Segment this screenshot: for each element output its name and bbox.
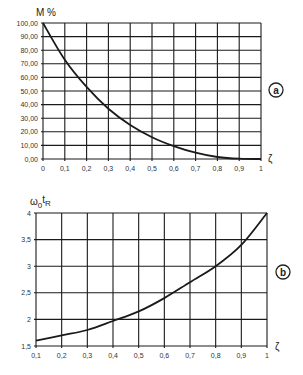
y-tick-label: 30,00 (20, 115, 38, 122)
y-tick-label: 3 (27, 263, 31, 270)
chart-a: 0,0010,0020,0030,0040,0050,0060,0070,008… (17, 7, 283, 172)
y-tick-label: 0,00 (24, 156, 38, 163)
x-tick-label: 0,1 (60, 165, 70, 172)
chart-b-panel-label: b (280, 267, 286, 278)
y-tick-label: 20,00 (20, 128, 38, 135)
chart-b-grid (34, 213, 267, 348)
x-tick-label: 0,7 (191, 165, 201, 172)
chart-a-y-axis-label: M % (36, 7, 56, 18)
chart-a-x-axis-label: ζ (268, 153, 273, 165)
y-tick-label: 1,5 (21, 343, 31, 350)
chart-b-y-axis-label: ω0tR (30, 194, 51, 210)
x-tick-label: 0,5 (134, 352, 144, 359)
chart-b: 1,522,533,54 0,10,20,30,40,50,60,70,80,9… (21, 194, 290, 359)
x-tick-label: 0,6 (159, 352, 169, 359)
y-tick-label: 2 (27, 316, 31, 323)
y-tick-label: 80,00 (20, 47, 38, 54)
x-tick-label: 0,3 (104, 165, 114, 172)
x-tick-label: 0,2 (57, 352, 67, 359)
x-tick-label: 0,9 (234, 165, 244, 172)
y-tick-label: 40,00 (20, 101, 38, 108)
y-tick-label: 4 (27, 210, 31, 217)
chart-b-panel-badge: b (276, 265, 290, 279)
x-tick-label: 0,4 (125, 165, 135, 172)
y-tick-label: 90,00 (20, 33, 38, 40)
chart-b-curve (36, 213, 267, 341)
x-tick-label: 1 (259, 165, 263, 172)
chart-b-y-tick-labels: 1,522,533,54 (21, 210, 31, 350)
y-tick-label: 10,00 (20, 142, 38, 149)
chart-b-x-tick-labels: 0,10,20,30,40,50,60,70,80,91 (31, 352, 269, 359)
chart-a-y-tick-labels: 0,0010,0020,0030,0040,0050,0060,0070,008… (17, 20, 39, 163)
x-tick-label: 0,8 (213, 165, 223, 172)
chart-a-panel-badge: a (269, 83, 283, 97)
y-tick-label: 70,00 (20, 60, 38, 67)
x-tick-label: 0,2 (82, 165, 92, 172)
x-tick-label: 0 (41, 165, 45, 172)
x-tick-label: 0,7 (185, 352, 195, 359)
x-tick-label: 0,9 (236, 352, 246, 359)
x-tick-label: 0,6 (169, 165, 179, 172)
chart-a-x-tick-labels: 00,10,20,30,40,50,60,70,80,91 (41, 165, 263, 172)
chart-a-panel-label: a (273, 85, 279, 96)
y-tick-label: 3,5 (21, 236, 31, 243)
x-tick-label: 0,8 (211, 352, 221, 359)
y-tick-label: 50,00 (20, 88, 38, 95)
x-tick-label: 0,3 (82, 352, 92, 359)
figure: 0,0010,0020,0030,0040,0050,0060,0070,008… (0, 0, 303, 375)
x-tick-label: 1 (265, 352, 269, 359)
y-tick-label: 100,00 (17, 20, 39, 27)
y-tick-label: 2,5 (21, 289, 31, 296)
chart-b-x-axis-label: ζ (275, 341, 280, 353)
chart-a-grid (41, 23, 261, 161)
x-tick-label: 0,4 (108, 352, 118, 359)
x-tick-label: 0,5 (147, 165, 157, 172)
x-tick-label: 0,1 (31, 352, 41, 359)
y-tick-label: 60,00 (20, 74, 38, 81)
